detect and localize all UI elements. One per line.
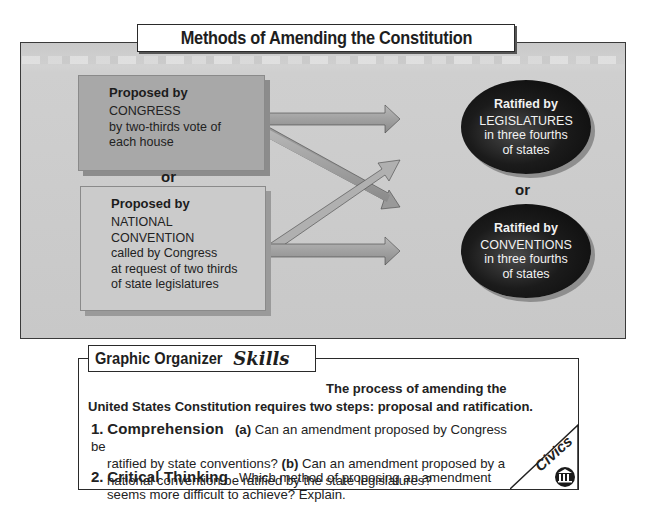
proposal-convention-line: at request of two thirds	[111, 262, 265, 278]
ratification-conventions-ellipse: Ratified by CONVENTIONS in three fourths…	[461, 204, 591, 298]
ratification-conventions-line: CONVENTIONS	[480, 238, 572, 253]
ratification-legislatures-line: in three fourths	[484, 128, 567, 143]
arrow-convention-to-legislatures	[268, 160, 400, 256]
skills-tab-title: Graphic Organizer	[95, 349, 223, 369]
arrow-congress-to-conventions	[265, 125, 400, 209]
question-text: seems more difficult to achieve? Explain…	[107, 487, 346, 502]
skills-intro-line2: United States Constitution requires two …	[88, 399, 533, 414]
proposal-convention-heading: Proposed by	[111, 196, 265, 211]
ratification-legislatures-heading: Ratified by	[494, 97, 558, 111]
ratification-legislatures-ellipse: Ratified by LEGISLATURES in three fourth…	[461, 80, 591, 174]
question-label: Critical Thinking	[107, 468, 228, 485]
proposal-convention-box: Proposed by NATIONAL CONVENTION called b…	[80, 186, 266, 311]
proposal-congress-line: each house	[109, 135, 264, 151]
question-critical-thinking: 2. Critical Thinking Which method of pro…	[91, 468, 501, 503]
ratification-or-separator: or	[515, 181, 530, 198]
proposal-convention-line: CONVENTION	[111, 231, 265, 247]
arrow-congress-to-legislatures	[265, 105, 400, 133]
civics-badge: Civics	[510, 395, 580, 490]
ratification-conventions-line: in three fourths	[484, 252, 567, 267]
proposal-congress-line: by two-thirds vote of	[109, 120, 264, 136]
question-part-a: (a)	[235, 422, 251, 437]
ratification-legislatures-line: LEGISLATURES	[479, 114, 573, 129]
ratification-conventions-heading: Ratified by	[494, 221, 558, 235]
skills-intro-line1: The process of amending the	[326, 381, 507, 396]
question-text: Which method of proposing an amendment	[239, 470, 491, 485]
question-label: Comprehension	[107, 420, 224, 437]
skills-tab: Graphic Organizer Skills	[88, 345, 316, 372]
proposal-convention-line: NATIONAL	[111, 215, 265, 231]
proposal-convention-line: of state legislatures	[111, 277, 265, 293]
proposal-congress-line: CONGRESS	[109, 104, 264, 120]
question-number: 1.	[91, 420, 104, 437]
proposal-convention-line: called by Congress	[111, 246, 265, 262]
capitol-columns-icon	[555, 467, 575, 487]
ratification-legislatures-line: of states	[502, 143, 549, 158]
proposal-congress-heading: Proposed by	[109, 85, 264, 100]
skills-tab-script: Skills	[233, 348, 289, 369]
ratification-conventions-line: of states	[502, 267, 549, 282]
proposal-or-separator: or	[161, 168, 176, 185]
proposal-congress-box: Proposed by CONGRESS by two-thirds vote …	[78, 75, 265, 171]
question-number: 2.	[91, 468, 104, 485]
